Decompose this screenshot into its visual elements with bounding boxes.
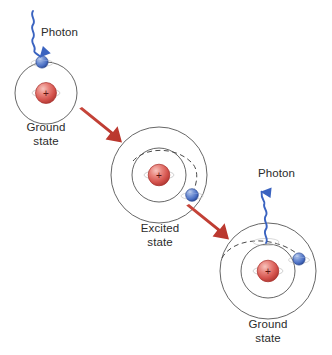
photon-outgoing-label: Photon [258,167,295,179]
atom-ground-initial: + [15,56,77,124]
photon-incoming-wave [32,11,40,57]
caption-ground-state-final: Ground state [232,318,304,345]
atom-ground-final: + [220,223,316,319]
nucleus-charge-sign: + [156,170,162,181]
caption-excited-state: Excited state [124,222,196,249]
electron [293,253,305,265]
arrow-absorb [79,107,122,142]
electron [36,56,48,68]
photon-outgoing [262,192,267,243]
photon-incoming-label: Photon [41,26,78,38]
arrow-absorb-shape [79,107,122,142]
electron-transition-path [222,241,301,260]
nucleus-charge-sign: + [43,88,49,99]
electron [186,189,199,202]
photon-incoming [32,11,40,57]
physics-diagram-canvas: + + [0,0,332,355]
nucleus-charge-sign: + [265,266,271,277]
photon-outgoing-wave [262,192,267,243]
caption-ground-state-initial: Ground state [10,121,82,148]
